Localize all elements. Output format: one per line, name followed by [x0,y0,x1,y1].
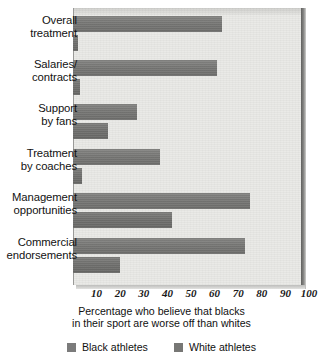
legend-item-white-athletes[interactable]: White athletes [174,341,256,353]
bar-texture [73,257,120,273]
category-label-line: Overall [0,14,77,27]
category-label-2: Salaries/contracts [0,58,77,83]
bar-white-athletes-group-3 [73,123,108,139]
plot-right-shadow [301,8,306,289]
caption-line-2: in their sport are worse off than whites [0,317,323,329]
legend-item-black-athletes[interactable]: Black athletes [67,341,148,353]
bar-white-athletes-group-5 [73,212,172,228]
category-label-line: Treatment [0,147,77,160]
x-tick-20: 20 [115,287,126,299]
x-tick-60: 60 [209,287,220,299]
category-label-line: Commercial [0,236,77,249]
x-tick-30: 30 [138,287,149,299]
category-label-5: Managementopportunities [0,191,77,216]
x-tick-10: 10 [91,287,102,299]
legend-label-black-athletes: Black athletes [82,341,148,353]
x-tick-70: 70 [233,287,244,299]
bar-black-athletes-group-3 [73,104,137,120]
bar-texture [73,16,222,32]
legend-label-white-athletes: White athletes [189,341,256,353]
x-tick-80: 80 [256,287,267,299]
bar-black-athletes-group-4 [73,149,160,165]
bar-texture [73,60,217,76]
x-axis-tick-labels: 102030405060708090100 [0,287,323,303]
category-label-3: Supportby fans [0,102,77,127]
category-label-line: treatment [0,27,77,40]
category-label-1: Overalltreatment [0,14,77,39]
caption-line-1: Percentage who believe that blacks [0,305,323,317]
category-label-line: opportunities [0,204,77,217]
bar-black-athletes-group-1 [73,16,222,32]
x-tick-40: 40 [162,287,173,299]
bar-black-athletes-group-6 [73,238,245,254]
category-label-line: Support [0,102,77,115]
plot-top-shading [73,8,301,15]
bar-texture [73,104,137,120]
square-swatch-icon [174,343,183,352]
chart-caption: Percentage who believe that blacks in th… [0,305,323,330]
bar-texture [73,123,108,139]
bar-texture [73,238,245,254]
bar-texture [73,212,172,228]
bar-black-athletes-group-2 [73,60,217,76]
bar-texture [73,149,160,165]
square-swatch-icon [67,343,76,352]
bar-black-athletes-group-5 [73,193,250,209]
x-tick-90: 90 [280,287,291,299]
bar-texture [73,193,250,209]
category-label-line: Salaries/ [0,58,77,71]
category-label-line: Management [0,191,77,204]
category-label-4: Treatmentby coaches [0,147,77,172]
bar-white-athletes-group-6 [73,257,120,273]
category-label-6: Commercialendorsements [0,236,77,261]
category-label-line: endorsements [0,249,77,262]
category-label-line: by fans [0,115,77,128]
category-label-line: by coaches [0,160,77,173]
x-tick-50: 50 [186,287,197,299]
chart-legend: Black athletes White athletes [0,341,323,353]
x-tick-100: 100 [301,287,318,299]
category-label-line: contracts [0,71,77,84]
